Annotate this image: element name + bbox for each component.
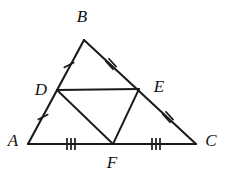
vertex-label-e: E: [153, 77, 165, 96]
vertex-label-d: D: [34, 80, 48, 99]
triangle-figure: ABCDEF: [0, 0, 228, 181]
segment-bc: [84, 40, 196, 144]
geometry-diagram: ABCDEF: [0, 0, 228, 181]
segment-ef: [113, 89, 139, 144]
segment-de: [57, 89, 139, 90]
vertex-label-c: C: [205, 131, 217, 150]
segment-df: [57, 90, 113, 144]
vertex-label-a: A: [7, 131, 19, 150]
vertex-label-b: B: [77, 7, 88, 26]
segments-layer: [28, 40, 196, 144]
vertex-label-f: F: [106, 153, 118, 172]
